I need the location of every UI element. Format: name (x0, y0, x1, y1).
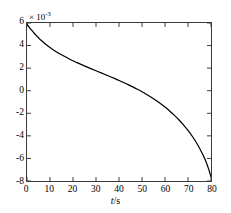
axis-tick-marks (27, 23, 211, 181)
x-tick-label: 60 (153, 184, 179, 194)
x-axis-title-unit: /s (114, 195, 121, 206)
x-tick-label: 40 (106, 184, 132, 194)
y-tick-label: 0 (2, 86, 24, 96)
x-tick-label: 70 (176, 184, 202, 194)
data-series-line (27, 24, 211, 177)
y-axis-tick-labels: 6420-2-4-6-8 (0, 0, 24, 213)
x-tick-label: 30 (83, 184, 109, 194)
plot-area (26, 22, 212, 182)
x-tick-label: 0 (13, 184, 39, 194)
x-tick-label: 80 (199, 184, 225, 194)
y-axis-exponent-power: -3 (45, 10, 50, 17)
y-tick-label: 6 (2, 17, 24, 27)
y-tick-label: -2 (2, 108, 24, 118)
curve-canvas (27, 23, 211, 181)
y-axis-exponent-label: × 10-3 (29, 9, 51, 22)
x-tick-label: 20 (60, 184, 86, 194)
chart-figure: × 10-3 6420-2-4-6-8 01020304050607080 t/… (0, 0, 231, 213)
y-tick-label: -6 (2, 154, 24, 164)
x-axis-title: t/s (0, 195, 231, 206)
x-tick-label: 10 (36, 184, 62, 194)
y-axis-exponent-prefix: × 10 (29, 12, 45, 22)
y-tick-label: 2 (2, 63, 24, 73)
y-tick-label: 4 (2, 40, 24, 50)
y-tick-label: -4 (2, 131, 24, 141)
x-tick-label: 50 (129, 184, 155, 194)
